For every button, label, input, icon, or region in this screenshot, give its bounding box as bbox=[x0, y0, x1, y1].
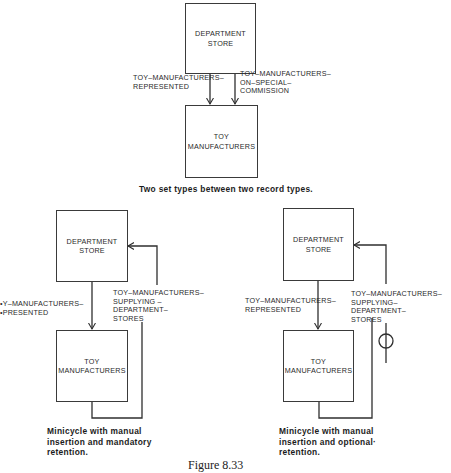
record-box-toy-manufacturers-top: TOY MANUFACTURERS bbox=[185, 105, 258, 178]
caption-left: Minicycle with manual insertion and mand… bbox=[47, 426, 152, 458]
set-label-special-commission: TOY–MANUFACTURERS– ON–SPECIAL– COMMISSIO… bbox=[240, 70, 331, 96]
record-label: DEPARTMENT STORE bbox=[293, 235, 344, 254]
record-label: TOY MANUFACTURERS bbox=[285, 357, 352, 376]
record-box-toy-manufacturers-right: TOY MANUFACTURERS bbox=[283, 330, 354, 402]
set-label-represented-right: TOY–MANUFACTURERS– REPRESENTED bbox=[245, 297, 336, 314]
set-label-represented-left: •Y–MANUFACTURERS– •PRESENTED bbox=[0, 300, 83, 317]
record-box-department-store-top: DEPARTMENT STORE bbox=[185, 3, 256, 74]
cycle-label-right: TOY–MANUFACTURERS– SUPPLYING– DEPARTMENT… bbox=[351, 290, 442, 324]
right-cycle-upper bbox=[354, 245, 386, 284]
caption-top: Two set types between two record types. bbox=[139, 184, 313, 195]
record-label: TOY MANUFACTURERS bbox=[58, 357, 125, 376]
record-label: DEPARTMENT STORE bbox=[67, 237, 118, 256]
record-box-department-store-right: DEPARTMENT STORE bbox=[283, 208, 354, 281]
cycle-label-left: TOY–MANUFACTURERS– SUPPLYING – DEPARTMEN… bbox=[113, 289, 204, 323]
record-label: DEPARTMENT STORE bbox=[195, 29, 246, 48]
caption-right: Minicycle with manual insertion and opti… bbox=[279, 426, 376, 458]
record-label: TOY MANUFACTURERS bbox=[188, 132, 255, 151]
record-box-toy-manufacturers-left: TOY MANUFACTURERS bbox=[56, 330, 128, 402]
figure-caption: Figure 8.33 bbox=[188, 458, 243, 473]
record-box-department-store-left: DEPARTMENT STORE bbox=[56, 210, 128, 282]
left-cycle-upper bbox=[128, 246, 157, 285]
set-label-represented: TOY–MANUFACTURERS– REPRESENTED bbox=[133, 74, 224, 91]
